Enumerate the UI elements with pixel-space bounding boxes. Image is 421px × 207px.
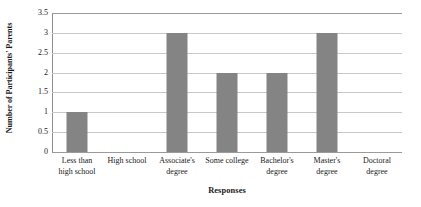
x-axis-tick-labels: Less thanhigh schoolHigh schoolAssociate…: [52, 156, 402, 182]
x-tick-label: Doctoraldegree: [346, 156, 408, 177]
y-axis-tick-labels: 00.511.522.533.5: [22, 13, 48, 152]
bar[interactable]: [167, 33, 188, 152]
x-tick-label-line: Doctoral: [346, 156, 408, 167]
y-tick-label: 0.5: [22, 128, 48, 136]
gridline-0: [52, 152, 402, 153]
bar-slot: [52, 13, 102, 152]
x-tick-label-line: high school: [46, 167, 108, 178]
bar[interactable]: [217, 73, 238, 152]
bars-group: [52, 13, 402, 152]
y-tick-label: 1.5: [22, 88, 48, 96]
bar-slot: [202, 13, 252, 152]
x-axis-title: Responses: [52, 186, 402, 195]
y-tick-label: 3.5: [22, 9, 48, 17]
plot-area: [52, 13, 402, 152]
x-tick-label-line: degree: [346, 167, 408, 178]
y-tick-label: 2.5: [22, 49, 48, 57]
bar[interactable]: [67, 112, 88, 152]
y-tick-label: 2: [22, 69, 48, 77]
bar-slot: [302, 13, 352, 152]
y-tick-label: 0: [22, 148, 48, 156]
bar-slot: [352, 13, 402, 152]
bar-slot: [152, 13, 202, 152]
bar[interactable]: [267, 73, 288, 152]
bar-chart-figure: Number of Participants' Parents 00.511.5…: [0, 0, 421, 207]
y-tick-label: 1: [22, 108, 48, 116]
bar-slot: [102, 13, 152, 152]
y-axis-title: Number of Participants' Parents: [2, 2, 16, 154]
bar[interactable]: [317, 33, 338, 152]
y-tick-label: 3: [22, 29, 48, 37]
bar-slot: [252, 13, 302, 152]
x-tick-label-line: degree: [146, 167, 208, 178]
